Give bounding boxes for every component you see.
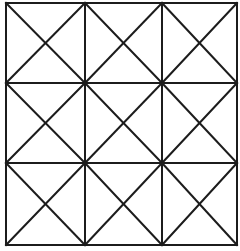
grid-diagonal-diagram <box>0 0 240 251</box>
diagonal-lines <box>6 3 237 245</box>
